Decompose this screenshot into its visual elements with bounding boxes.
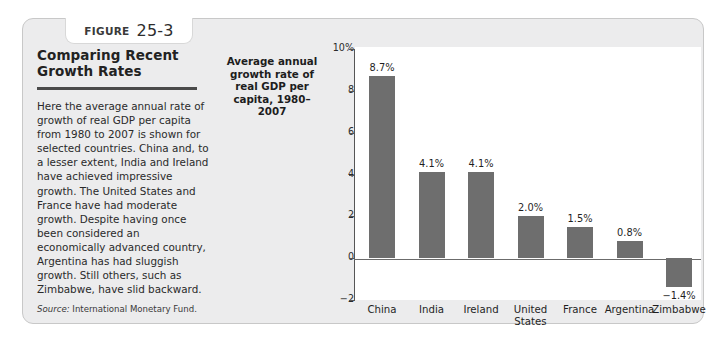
y-tick-label: 10% — [333, 42, 354, 53]
caption-divider — [37, 87, 197, 90]
y-tick-mark — [349, 49, 355, 50]
y-tick-mark — [349, 175, 355, 176]
caption-source: Source: International Monetary Fund. — [37, 304, 215, 315]
source-text: International Monetary Fund. — [72, 304, 197, 314]
bar — [369, 76, 395, 258]
caption-column: Comparing Recent Growth Rates Here the a… — [37, 47, 215, 315]
bar — [666, 258, 692, 287]
bar-value-label: 2.0% — [504, 202, 558, 213]
y-tick-label: 4 — [348, 168, 354, 179]
bar-chart: 10%86420−2 8.7%4.1%4.1%2.0%1.5%0.8%−1.4%… — [333, 47, 701, 315]
y-tick-mark — [349, 300, 355, 301]
bar-value-label: 0.8% — [603, 227, 657, 238]
figure-number-tab: FIGURE 25-3 — [65, 18, 193, 44]
y-axis-title: Average annual growth rate of real GDP p… — [223, 55, 321, 118]
figure-label: FIGURE — [84, 25, 129, 37]
bar — [567, 227, 593, 258]
bar-value-label: 4.1% — [454, 158, 508, 169]
bar — [617, 241, 643, 258]
x-category-label: Zimbabwe — [648, 304, 710, 316]
bar — [419, 172, 445, 258]
bar-value-label: 4.1% — [405, 158, 459, 169]
source-label: Source: — [37, 304, 70, 314]
plot-background — [355, 47, 701, 300]
figure-card: FIGURE 25-3 Comparing Recent Growth Rate… — [22, 18, 704, 324]
y-tick-mark — [349, 216, 355, 217]
zero-baseline — [354, 259, 701, 260]
bar — [468, 172, 494, 258]
bar-value-label: 1.5% — [553, 213, 607, 224]
bar — [518, 216, 544, 258]
y-tick-mark — [349, 91, 355, 92]
y-tick-label: 0 — [348, 251, 354, 262]
y-tick-mark — [349, 258, 355, 259]
y-tick-label: −2 — [340, 293, 354, 304]
bar-value-label: 8.7% — [355, 62, 409, 73]
figure-number: 25-3 — [137, 21, 174, 40]
bar-value-label: −1.4% — [652, 290, 706, 301]
y-tick-label: 6 — [348, 126, 354, 137]
y-tick-label: 2 — [348, 209, 354, 220]
y-tick-mark — [349, 133, 355, 134]
caption-title: Comparing Recent Growth Rates — [37, 47, 215, 79]
caption-body: Here the average annual rate of growth o… — [37, 99, 209, 296]
y-tick-label: 8 — [348, 84, 354, 95]
